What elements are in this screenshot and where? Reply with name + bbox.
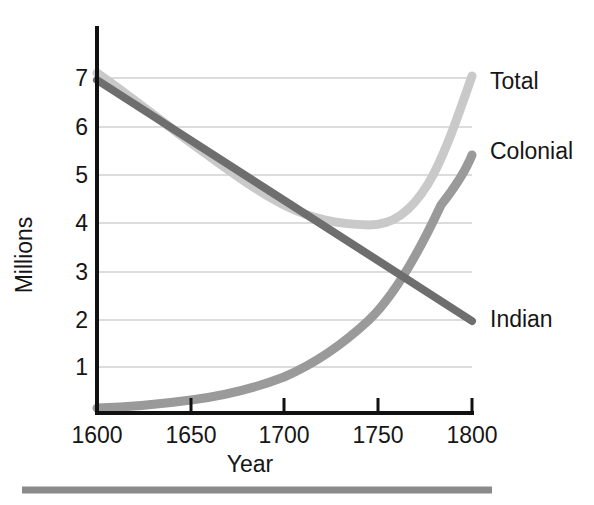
y-tick-label-6: 6 <box>75 114 88 140</box>
x-tick-labels: 1600 1650 1700 1750 1800 <box>71 422 497 448</box>
figure-root: 7 6 5 4 3 2 1 1600 1650 1700 1750 1800 M… <box>0 0 594 505</box>
x-tick-label-1700: 1700 <box>258 422 309 448</box>
x-tick-label-1650: 1650 <box>165 422 216 448</box>
x-tick-label-1600: 1600 <box>71 422 122 448</box>
y-tick-label-5: 5 <box>75 162 88 188</box>
y-tick-label-3: 3 <box>75 259 88 285</box>
y-tick-label-4: 4 <box>75 210 88 236</box>
y-tick-labels: 7 6 5 4 3 2 1 <box>75 65 88 380</box>
x-axis-title: Year <box>227 451 274 477</box>
series-labels: Total Colonial Indian <box>490 68 573 332</box>
x-tick-label-1750: 1750 <box>352 422 403 448</box>
y-tick-label-7: 7 <box>75 65 88 91</box>
series-label-total: Total <box>490 68 539 94</box>
y-axis-title: Millions <box>11 217 37 294</box>
line-chart: 7 6 5 4 3 2 1 1600 1650 1700 1750 1800 M… <box>0 0 594 505</box>
axes <box>97 28 472 413</box>
series-label-indian: Indian <box>490 306 553 332</box>
series-label-colonial: Colonial <box>490 138 573 164</box>
y-tick-label-1: 1 <box>75 354 88 380</box>
x-tick-label-1800: 1800 <box>446 422 497 448</box>
y-tick-label-2: 2 <box>75 307 88 333</box>
gridlines <box>97 78 472 367</box>
